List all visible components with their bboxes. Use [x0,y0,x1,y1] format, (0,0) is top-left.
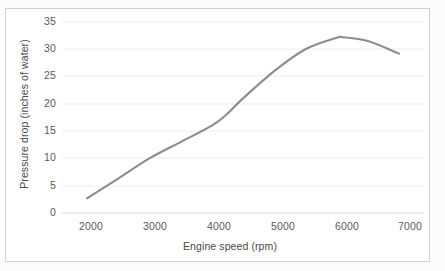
y-tick-label: 35 [30,15,56,27]
y-tick-label: 25 [30,69,56,81]
gridlines [62,22,424,186]
x-tick-label: 4000 [196,220,242,232]
y-tick-label: 15 [30,124,56,136]
y-tick-label: 10 [30,151,56,163]
x-tick-label: 6000 [324,220,370,232]
x-tick-label: 7000 [387,220,433,232]
data-series-line [87,37,399,199]
x-axis-title: Engine speed (rpm) [60,240,400,252]
x-tick-label: 5000 [260,220,306,232]
y-tick-label: 5 [30,179,56,191]
x-tick-label: 3000 [132,220,178,232]
y-tick-label: 30 [30,42,56,54]
y-tick-label: 20 [30,97,56,109]
chart-figure: 35 30 25 20 15 10 5 0 2000 3000 4000 500… [0,0,445,271]
y-tick-label: 0 [30,206,56,218]
x-tick-label: 2000 [68,220,114,232]
y-axis-title: Pressure drop (inches of water) [18,24,30,204]
